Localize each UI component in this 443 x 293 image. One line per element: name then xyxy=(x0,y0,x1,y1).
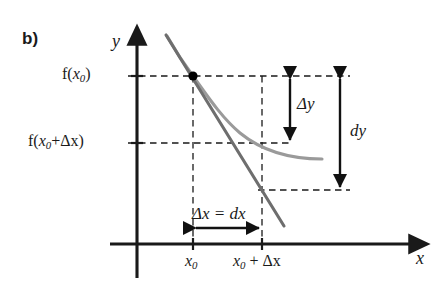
x-axis-label: x xyxy=(416,249,424,267)
f-x0-base: x xyxy=(73,65,80,82)
axis-ticks xyxy=(131,76,262,250)
x0-subscript: 0 xyxy=(192,259,197,271)
tangency-point xyxy=(188,71,197,80)
tangent-line xyxy=(166,35,284,226)
f-x0-dx-prefix: f( xyxy=(28,132,39,149)
delta-x-equals-dx-label: Δx = dx xyxy=(192,205,246,222)
panel-tag: b) xyxy=(22,30,38,47)
y-axis-label: y xyxy=(112,32,120,50)
x0-dx-suffix: + Δx xyxy=(246,252,281,269)
x-tick-label-x0: x0 xyxy=(185,253,198,271)
dy-label: dy xyxy=(350,122,366,139)
y-tick-label-f-x0-plus-dx: f(x0+Δx) xyxy=(28,133,84,151)
f-x0-suffix: ) xyxy=(85,65,90,82)
f-x0-dx-suffix: +Δx) xyxy=(51,132,84,149)
delta-y-label: Δy xyxy=(297,95,315,112)
y-tick-label-f-x0: f(x0) xyxy=(62,66,91,84)
f-x0-dx-base: x xyxy=(39,132,46,149)
differential-diagram: b) y x f(x0) f(x0+Δx) x0 x0 + Δx Δy dy Δ… xyxy=(0,0,443,293)
x-tick-label-x0-plus-dx: x0 + Δx xyxy=(233,253,281,271)
f-x0-prefix: f( xyxy=(62,65,73,82)
